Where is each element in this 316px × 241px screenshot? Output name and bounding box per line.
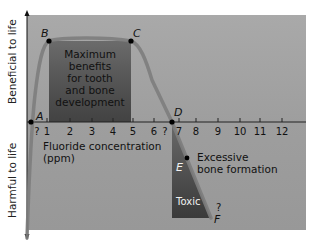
tick-label: ?: [162, 126, 167, 137]
y-label-harmful: Harmful to life: [6, 143, 18, 218]
tick-label: 12: [276, 126, 289, 137]
tick-label: ?: [34, 126, 39, 137]
benefit-annotation: Maximum benefits for tooth and bone deve…: [49, 48, 131, 108]
tick-label: 5: [130, 126, 136, 137]
tick-label: 6: [151, 126, 157, 137]
point-f-question: ?: [216, 202, 221, 213]
toxic-annotation: Toxic: [176, 196, 200, 207]
tick-label: 8: [193, 126, 199, 137]
tick-label: 11: [254, 126, 267, 137]
point-b-label: B: [41, 27, 49, 40]
tick-label: 2: [67, 126, 73, 137]
tick-label: 4: [110, 126, 116, 137]
point-d-dot: [169, 119, 174, 124]
tick-label: 3: [89, 126, 95, 137]
tick-label: 9: [215, 126, 221, 137]
point-d-label: D: [174, 106, 182, 119]
tick-label: 1: [44, 126, 50, 137]
x-label: Fluoride concentration (ppm): [43, 140, 161, 164]
y-axis-arrow-up: [25, 10, 30, 16]
tick-label: 10: [234, 126, 247, 137]
y-label-beneficial: Beneficial to life: [6, 19, 18, 104]
point-c-label: C: [133, 27, 141, 40]
point-f-label: F: [214, 213, 220, 226]
tick-label: 7: [176, 126, 182, 137]
excessive-annotation: Excessive bone formation: [197, 151, 278, 175]
point-e-label: E: [176, 161, 183, 174]
point-e-dot: [185, 156, 190, 161]
point-a-dot: [28, 119, 33, 124]
point-a-label: A: [36, 110, 44, 123]
